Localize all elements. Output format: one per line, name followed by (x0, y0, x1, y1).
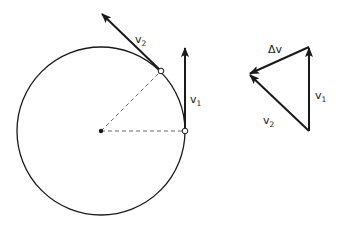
label-delta-v: Δv (268, 43, 283, 56)
center-point (99, 129, 103, 133)
position-point-2 (158, 68, 164, 74)
label-v1-triangle: v1 (315, 89, 327, 104)
circular-motion-diagram: v2 v1 Δv v1 v2 (0, 0, 339, 226)
triangle-v2-arrow (250, 75, 309, 131)
vector-v2-arrow (102, 14, 160, 70)
position-point-1 (182, 128, 188, 134)
label-v1-circle: v1 (190, 93, 202, 108)
circle-figure: v2 v1 (17, 14, 202, 215)
label-v2-circle: v2 (135, 33, 147, 48)
label-v2-triangle: v2 (263, 114, 275, 129)
radius-line-2 (101, 73, 159, 131)
vector-triangle: Δv v1 v2 (250, 43, 327, 131)
